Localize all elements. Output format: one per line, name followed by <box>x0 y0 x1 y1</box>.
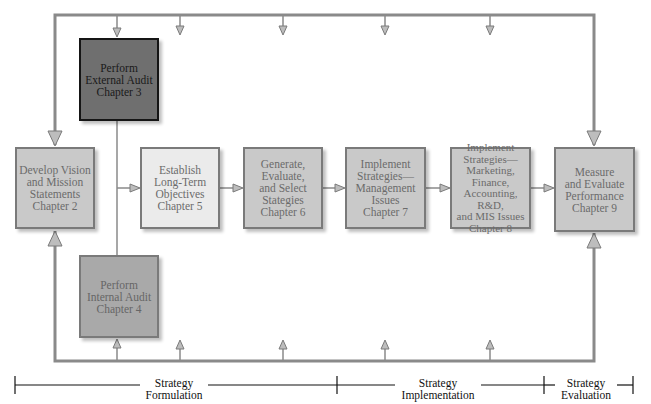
box-internal-audit: Perform Internal Audit Chapter 4 <box>79 255 159 338</box>
box-generate-strategies: Generate, Evaluate, and Select Stategies… <box>243 147 323 229</box>
box-implement-marketing-label: Implement Strategies— Marketing, Finance… <box>454 142 527 234</box>
phase-timeline <box>15 376 633 394</box>
phase-formulation-label: Strategy Formulation <box>140 377 208 401</box>
box-internal-audit-label: Perform Internal Audit Chapter 4 <box>87 279 151 315</box>
arrow-down-to-vision <box>48 131 62 146</box>
strategic-management-model-diagram: Perform External Audit Chapter 3 Develop… <box>0 0 651 404</box>
arrow-up-to-vision <box>48 231 62 246</box>
box-measure-evaluate-label: Measure and Evaluate Performance Chapter… <box>565 166 625 214</box>
box-long-term-objectives-label: Establish Long-Term Objectives Chapter 5 <box>154 164 206 212</box>
arrow-up-to-measure <box>587 233 601 248</box>
box-implement-management-label: Implement Strategies— Management Issues … <box>355 158 415 218</box>
box-vision-mission: Develop Vision and Mission Statements Ch… <box>15 147 95 229</box>
box-implement-management: Implement Strategies— Management Issues … <box>345 147 426 229</box>
box-generate-strategies-label: Generate, Evaluate, and Select Stategies… <box>259 158 307 218</box>
box-implement-marketing: Implement Strategies— Marketing, Finance… <box>450 147 531 229</box>
arrow-down-to-measure <box>587 131 601 146</box>
phase-evaluation-label: Strategy Evaluation <box>555 377 617 401</box>
box-measure-evaluate: Measure and Evaluate Performance Chapter… <box>554 147 635 232</box>
box-long-term-objectives: Establish Long-Term Objectives Chapter 5 <box>140 147 220 229</box>
box-vision-mission-label: Develop Vision and Mission Statements Ch… <box>19 164 91 212</box>
box-external-audit: Perform External Audit Chapter 3 <box>79 38 159 121</box>
phase-implementation-label: Strategy Implementation <box>395 377 481 401</box>
bottom-small-arrows <box>117 348 490 361</box>
box-external-audit-label: Perform External Audit Chapter 3 <box>85 62 152 98</box>
top-small-arrows <box>117 15 490 28</box>
